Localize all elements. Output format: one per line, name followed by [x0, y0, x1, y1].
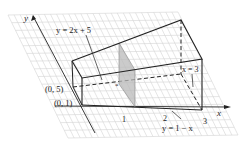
label-lower-curve: y = 1 − x — [162, 123, 194, 133]
leader-upper — [86, 35, 102, 80]
grid-line — [12, 20, 182, 23]
x-tick-2: 2 — [163, 114, 167, 123]
grid-line — [8, 12, 178, 15]
label-point-0-5: (0, 5) — [45, 84, 64, 94]
leader-x3 — [192, 74, 193, 87]
label-point-0-1: (0, 1) — [54, 98, 73, 108]
y-axis-label: y — [23, 13, 28, 23]
left-base-edge — [73, 87, 82, 105]
diagram-canvas: * y x y = 2x + 5 y = 1 − x x = 3 (0, 5) … — [0, 0, 244, 141]
grid-line — [57, 112, 227, 115]
x-axis-arrow-icon — [224, 105, 231, 109]
label-x-eq-3: x = 3 — [182, 65, 199, 74]
grid-line — [64, 127, 234, 130]
x-axis-label: x — [216, 108, 221, 118]
label-upper-curve: y = 2x + 5 — [56, 25, 91, 35]
x-tick-3: 3 — [203, 117, 207, 126]
grid-line — [68, 135, 238, 138]
x-tick-1: 1 — [122, 115, 126, 124]
section-marker: * — [115, 82, 119, 90]
